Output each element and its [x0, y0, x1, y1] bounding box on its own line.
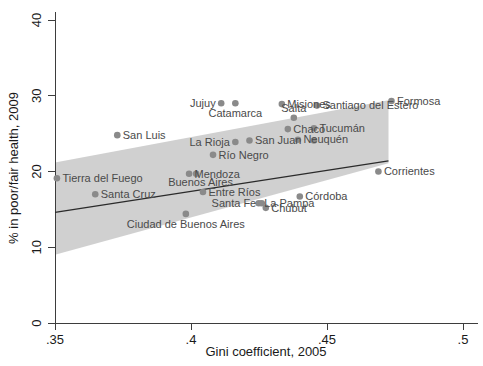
point-label-formosa: Formosa	[397, 95, 441, 107]
point-label-san-juan: San Juan	[255, 134, 301, 146]
point-label-corrientes: Corrientes	[384, 165, 435, 177]
point-label-catamarca: Catamarca	[208, 107, 263, 119]
data-point-chaco[interactable]	[285, 126, 292, 133]
data-point-catamarca[interactable]	[232, 100, 239, 107]
data-point-ciudad-de-buenos-aires[interactable]	[183, 211, 190, 218]
point-label-neuqu-n: Neuquén	[303, 133, 348, 145]
x-tick-label: .4	[186, 332, 197, 347]
data-point-r-o-negro[interactable]	[210, 152, 217, 159]
point-label-tierra-del-fuego: Tierra del Fuego	[62, 172, 142, 184]
data-point-santa-cruz[interactable]	[92, 191, 99, 198]
point-label-r-o-negro: Río Negro	[219, 149, 269, 161]
data-point-jujuy[interactable]	[218, 100, 225, 107]
y-axis-ticks: 010203040	[29, 13, 55, 327]
y-axis-title: % in poor/fair health, 2009	[6, 92, 21, 244]
y-tick-label: 20	[29, 164, 44, 178]
data-point-salta[interactable]	[291, 114, 298, 121]
point-label-la-rioja: La Rioja	[189, 136, 230, 148]
point-label-chubut: Chubut	[271, 202, 306, 214]
point-label-san-luis: San Luis	[123, 129, 166, 141]
data-point-san-luis[interactable]	[114, 132, 121, 139]
data-point-san-juan[interactable]	[246, 137, 253, 144]
data-point-la-rioja[interactable]	[232, 139, 239, 146]
chart-container: 010203040 .35.4.45.5 Tierra del FuegoSan…	[0, 0, 483, 366]
y-tick-label: 40	[29, 13, 44, 27]
data-point-entre-r-os[interactable]	[200, 189, 207, 196]
point-label-c-rdoba: Córdoba	[305, 190, 348, 202]
y-tick-label: 10	[29, 240, 44, 254]
x-tick-label: .5	[458, 332, 469, 347]
y-tick-label: 0	[29, 319, 44, 326]
x-tick-label: .35	[46, 332, 64, 347]
point-label-ciudad-de-buenos-aires: Ciudad de Buenos Aires	[127, 218, 246, 230]
x-axis-title: Gini coefficient, 2005	[205, 344, 326, 359]
point-label-tucum-n: Tucumán	[319, 122, 364, 134]
point-label-entre-r-os: Entre Ríos	[208, 186, 260, 198]
point-label-salta: Salta	[281, 102, 307, 114]
data-point-tierra-del-fuego[interactable]	[54, 175, 61, 182]
scatter-plot: 010203040 .35.4.45.5 Tierra del FuegoSan…	[0, 0, 483, 366]
point-label-santa-fe: Santa Fe	[212, 197, 257, 209]
y-tick-label: 30	[29, 89, 44, 103]
data-point-corrientes[interactable]	[375, 168, 382, 175]
point-label-santa-cruz: Santa Cruz	[101, 188, 156, 200]
